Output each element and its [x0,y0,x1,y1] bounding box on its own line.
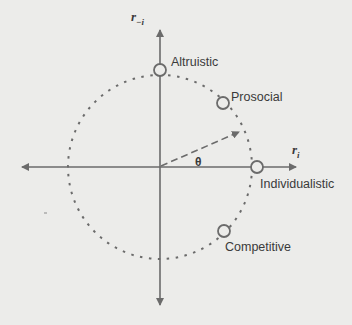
prosocial-marker [217,97,229,109]
individualistic-label: Individualistic [260,178,334,191]
competitive-marker [218,225,230,237]
svo-diagram: r−i ri θ Altruistic Prosocial Individual… [0,0,352,325]
y-axis-label-sub: −i [136,17,144,27]
y-axis-label: r−i [131,10,144,27]
competitive-label: Competitive [225,241,291,254]
theta-label: θ [195,156,202,168]
altruistic-marker [154,64,166,76]
individualistic-marker [251,161,263,173]
x-axis-label-sub: i [297,150,300,160]
altruistic-label: Altruistic [171,56,218,69]
prosocial-label: Prosocial [231,91,282,104]
diagram-canvas [0,0,352,325]
x-axis-label: ri [292,143,300,160]
